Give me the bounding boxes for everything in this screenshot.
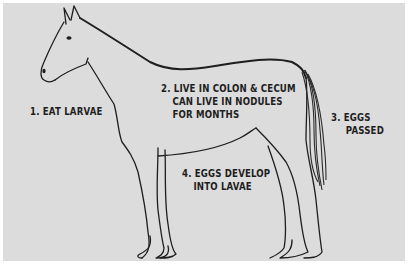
label-line: INTO LAVAE — [182, 180, 270, 193]
label-line: 1. EAT LARVAE — [30, 105, 103, 118]
horse-nostril — [42, 69, 45, 73]
horse-mane-back — [80, 18, 306, 78]
label-step-1-eat-larvae: 1. EAT LARVAE — [30, 105, 103, 118]
horse-eye — [66, 36, 71, 40]
label-step-4-eggs-develop: 4. EGGS DEVELOP INTO LAVAE — [182, 167, 270, 193]
horse-belly — [158, 128, 256, 156]
label-line: 4. EGGS DEVELOP — [182, 167, 270, 180]
label-line: 3. EGGS — [331, 111, 384, 124]
horse-ear-left — [64, 8, 70, 24]
label-line: 2. LIVE IN COLON & CECUM — [161, 82, 296, 95]
label-step-3-eggs-passed: 3. EGGS PASSED — [331, 111, 384, 137]
horse-ear-right — [71, 6, 80, 20]
horse-jaw — [55, 58, 88, 80]
label-line: CAN LIVE IN NODULES — [161, 95, 296, 108]
horse-neck-front — [88, 62, 149, 258]
label-step-2-live-in-colon: 2. LIVE IN COLON & CECUM CAN LIVE IN NOD… — [161, 82, 296, 121]
label-line: PASSED — [331, 124, 384, 137]
label-line: FOR MONTHS — [161, 108, 296, 121]
